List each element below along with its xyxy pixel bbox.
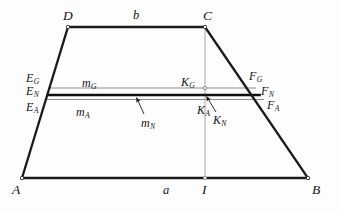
point-label-KN-base: K [213, 113, 221, 127]
point-label-FA: FA [267, 99, 279, 113]
side-label-a: a [163, 184, 169, 197]
vertex-marker-A [20, 176, 23, 179]
point-label-KA: KA [197, 104, 210, 118]
trapezoid-outline [22, 27, 308, 178]
point-label-KN-sub: N [221, 119, 226, 128]
point-label-KA-sub: A [205, 109, 210, 118]
point-label-EA: EA [26, 101, 38, 115]
vertex-marker-C [203, 25, 206, 28]
geometry-figure: A B C D I b a EG EN EA KG KA KN FG FN FA… [0, 0, 339, 211]
mean-line-label-mG-sub: G [91, 82, 97, 91]
point-label-KG: KG [181, 76, 195, 90]
mN-leader-arrow [137, 98, 145, 114]
mean-line-label-mN-sub: N [150, 122, 155, 131]
vertex-marker-D [66, 25, 69, 28]
mean-line-label-mN-base: m [141, 116, 150, 130]
vertex-label-B: B [312, 183, 320, 197]
point-label-EA-sub: A [33, 106, 38, 115]
point-label-KG-sub: G [189, 81, 195, 90]
point-label-KA-base: K [197, 103, 205, 117]
point-label-EN-sub: N [33, 90, 38, 99]
mean-line-label-mA-base: m [76, 105, 85, 119]
mean-line-label-mN: mN [141, 117, 155, 131]
vertex-label-C: C [203, 9, 212, 23]
point-marker-KG [203, 86, 206, 89]
point-label-KG-base: K [181, 75, 189, 89]
side-label-b: b [133, 9, 139, 22]
vertex-label-D: D [63, 9, 73, 23]
point-label-FG: FG [249, 70, 262, 84]
point-label-FA-sub: A [274, 104, 279, 113]
mean-line-label-mG: mG [82, 77, 97, 91]
point-label-FN: FN [261, 85, 274, 99]
vertex-marker-B [306, 176, 309, 179]
vertex-label-A: A [12, 183, 20, 197]
diagram-canvas [0, 0, 339, 211]
mean-line-label-mA-sub: A [85, 111, 90, 120]
mean-line-label-mA: mA [76, 106, 90, 120]
point-label-KN: KN [213, 114, 226, 128]
point-label-EN: EN [26, 85, 39, 99]
vertex-marker-I [204, 177, 207, 180]
mean-line-label-mG-base: m [82, 76, 91, 90]
vertex-label-I: I [202, 183, 207, 197]
point-label-FG-sub: G [256, 75, 262, 84]
